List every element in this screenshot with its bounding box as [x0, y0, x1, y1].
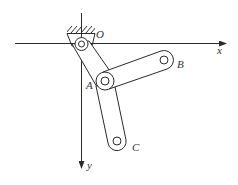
label-x-axis: x [216, 44, 222, 56]
label-C: C [132, 141, 140, 153]
link-AC [96, 82, 126, 151]
pivot-O-outer [75, 38, 88, 51]
label-O: O [96, 28, 104, 40]
label-A: A [85, 79, 93, 91]
mechanism-diagram: O A B C x y [0, 0, 238, 185]
joint-A-outer [96, 72, 114, 90]
label-B: B [177, 58, 184, 70]
label-y-axis: y [86, 159, 92, 171]
